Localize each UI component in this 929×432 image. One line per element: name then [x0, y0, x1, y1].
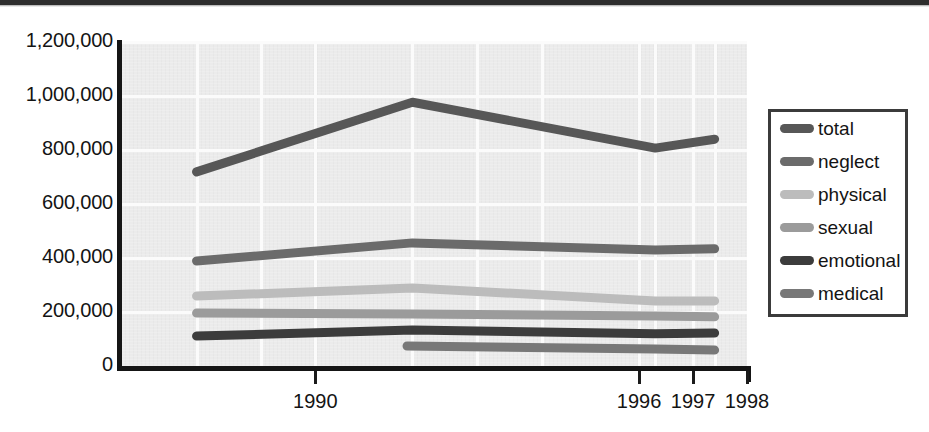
y-axis-tick-label: 600,000: [1, 191, 113, 214]
series-line-emotional: [197, 330, 715, 336]
x-axis-tick: [746, 371, 749, 384]
series-line-neglect: [197, 243, 715, 261]
legend-label: sexual: [818, 218, 873, 237]
y-axis-tick-labels: 0200,000400,000600,000800,0001,000,0001,…: [0, 14, 113, 432]
legend-swatch-neglect: [780, 157, 814, 166]
x-axis-tick-label: 1996: [617, 390, 662, 413]
chart-legend: totalneglectphysicalsexualemotionalmedic…: [768, 109, 908, 317]
x-axis-line: [117, 366, 751, 371]
y-axis-tick-label: 0: [1, 353, 113, 376]
legend-swatch-emotional: [780, 256, 814, 265]
legend-swatch-medical: [780, 289, 814, 298]
legend-item-medical[interactable]: medical: [771, 277, 905, 310]
page-top-rule-shadow: [0, 5, 929, 7]
legend-label: emotional: [818, 251, 900, 270]
y-axis-tick-label: 800,000: [1, 137, 113, 160]
y-axis-line: [117, 40, 122, 370]
legend-item-neglect[interactable]: neglect: [771, 145, 905, 178]
series-line-physical: [197, 288, 715, 301]
x-axis-tick: [638, 371, 641, 384]
legend-label: medical: [818, 284, 883, 303]
y-axis-tick-label: 1,200,000: [1, 29, 113, 52]
y-axis-tick-label: 400,000: [1, 245, 113, 268]
legend-item-physical[interactable]: physical: [771, 178, 905, 211]
legend-item-sexual[interactable]: sexual: [771, 211, 905, 244]
chart-page: 0200,000400,000600,000800,0001,000,0001,…: [0, 0, 929, 432]
legend-label: total: [818, 119, 854, 138]
x-axis-tick-label: 1990: [293, 390, 338, 413]
x-axis-tick: [314, 371, 317, 384]
series-line-total: [197, 102, 715, 172]
series-line-sexual: [197, 313, 715, 317]
x-axis-tick-label: 1997: [671, 390, 716, 413]
legend-label: neglect: [818, 152, 879, 171]
x-axis-tick-label: 1998: [725, 390, 770, 413]
legend-item-total[interactable]: total: [771, 112, 905, 145]
legend-item-emotional[interactable]: emotional: [771, 244, 905, 277]
legend-label: physical: [818, 185, 887, 204]
series-line-medical: [407, 346, 715, 350]
y-axis-tick-label: 1,000,000: [1, 83, 113, 106]
data-series-layer: [121, 42, 747, 366]
line-chart: 0200,000400,000600,000800,0001,000,0001,…: [0, 14, 929, 432]
legend-swatch-sexual: [780, 223, 814, 232]
legend-swatch-total: [780, 124, 814, 133]
y-axis-tick-label: 200,000: [1, 299, 113, 322]
x-axis-tick: [692, 371, 695, 384]
legend-swatch-physical: [780, 190, 814, 199]
